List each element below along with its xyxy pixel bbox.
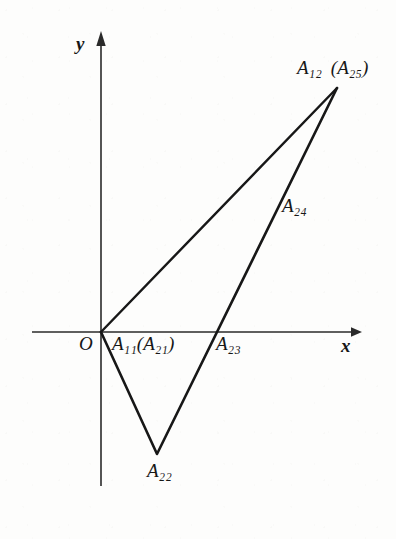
y-axis-label: y [76, 34, 84, 53]
point-label-a24: A₂₄ [282, 196, 307, 215]
point-label-a21: (A₂₁) [137, 333, 174, 354]
point-label-a12: A₁₂ [297, 57, 322, 78]
diagram-canvas [0, 0, 396, 539]
point-label-a22: A₂₂ [147, 461, 172, 480]
x-axis-label: x [341, 336, 351, 355]
x-axis-arrowhead [351, 327, 362, 337]
point-label-a12-a25: A₁₂(A₂₅) [297, 58, 368, 77]
origin-label: O [79, 334, 93, 353]
y-axis-arrowhead [96, 31, 105, 46]
point-label-a23: A₂₃ [216, 334, 241, 353]
geometry-figure: y x O A₁₁(A₂₁) A₂₃ A₂₂ A₂₄ A₁₂(A₂₅) [0, 0, 396, 539]
point-label-a11: A₁₁ [112, 333, 137, 354]
point-label-a11-a21: A₁₁(A₂₁) [112, 334, 174, 353]
polyline-origin-a22-apex [101, 88, 337, 454]
y-axis [96, 31, 105, 486]
point-label-a25: (A₂₅) [331, 57, 368, 78]
